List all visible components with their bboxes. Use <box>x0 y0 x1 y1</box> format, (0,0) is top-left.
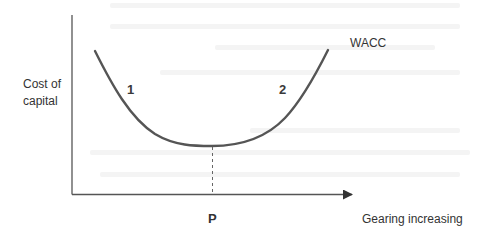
optimum-point-label: P <box>208 212 217 225</box>
y-axis-label-line2: capital <box>23 95 58 107</box>
segment-label-2: 2 <box>279 83 286 96</box>
chart-canvas <box>0 0 477 238</box>
wacc-diagram: Cost of capital WACC 1 2 P Gearing incre… <box>0 0 477 238</box>
wacc-curve <box>95 50 328 146</box>
y-axis-label-line1: Cost of <box>23 78 61 90</box>
wacc-label: WACC <box>350 37 386 49</box>
segment-label-1: 1 <box>127 83 134 96</box>
x-axis-label: Gearing increasing <box>362 213 463 225</box>
